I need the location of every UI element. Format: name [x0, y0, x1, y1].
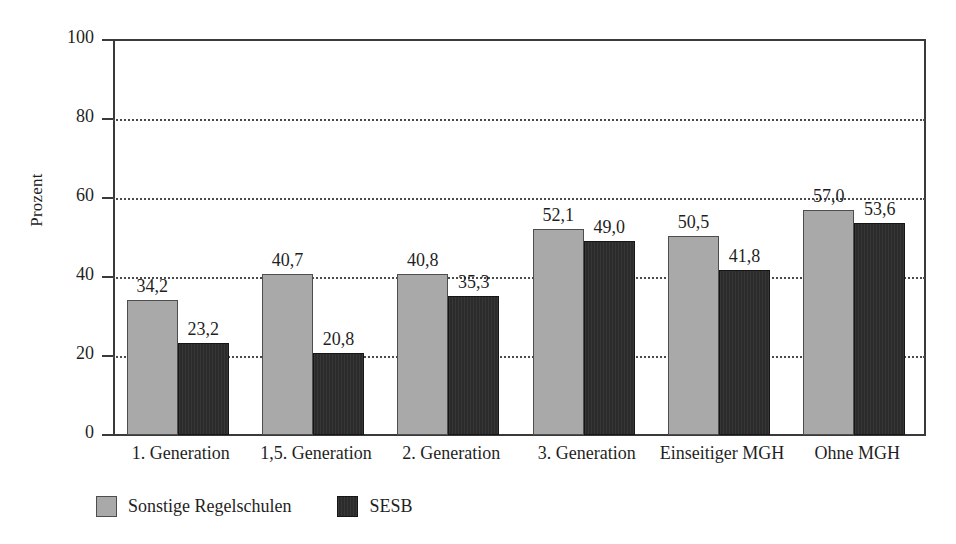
bar-value-label-1-5: 53,6: [843, 199, 916, 220]
legend-label-series-0: Sonstige Regelschulen: [128, 496, 291, 517]
legend-item-sesb[interactable]: SESB: [337, 496, 412, 517]
bar-1-3: [584, 241, 635, 435]
bar-0-3: [533, 229, 584, 435]
y-tick-label-60: 60: [40, 185, 94, 206]
legend-swatch-icon-series-0: [96, 496, 117, 517]
y-tick-mark-20: [102, 355, 113, 357]
bar-value-label-0-4: 50,5: [657, 212, 730, 233]
bar-value-label-0-0: 34,2: [116, 276, 189, 297]
bar-value-label-1-4: 41,8: [708, 246, 781, 267]
y-tick-label-0: 0: [40, 422, 94, 443]
bar-0-5: [803, 210, 854, 435]
bars-layer: 34,223,240,720,840,835,352,149,050,541,8…: [113, 40, 925, 435]
legend-label-series-1: SESB: [369, 496, 412, 517]
bar-0-2: [397, 274, 448, 435]
bar-value-label-1-1: 20,8: [302, 329, 375, 350]
bar-value-label-1-2: 35,3: [437, 272, 510, 293]
bar-1-5: [854, 223, 905, 435]
y-tick-label-40: 40: [40, 264, 94, 285]
legend-item-sonstige-regelschulen[interactable]: Sonstige Regelschulen: [96, 496, 291, 517]
y-tick-mark-60: [102, 197, 113, 199]
x-axis-label-5: Ohne MGH: [778, 443, 937, 464]
bar-value-label-1-3: 49,0: [573, 217, 646, 238]
bar-1-1: [313, 353, 364, 435]
legend: Sonstige Regelschulen SESB: [96, 496, 413, 517]
y-tick-mark-100: [102, 39, 113, 41]
y-tick-label-100: 100: [40, 27, 94, 48]
y-tick-mark-80: [102, 118, 113, 120]
bar-value-label-1-0: 23,2: [167, 319, 240, 340]
y-tick-mark-40: [102, 276, 113, 278]
y-tick-label-80: 80: [40, 106, 94, 127]
legend-swatch-icon-series-1: [337, 496, 358, 517]
bar-0-1: [262, 274, 313, 435]
bar-value-label-0-2: 40,8: [386, 250, 459, 271]
bar-1-2: [448, 296, 499, 435]
bar-1-4: [719, 270, 770, 435]
y-tick-mark-0: [102, 434, 113, 436]
bar-chart: Prozent 020406080100 34,223,240,720,840,…: [0, 0, 956, 544]
y-tick-label-20: 20: [40, 343, 94, 364]
bar-1-0: [178, 343, 229, 435]
bar-value-label-0-1: 40,7: [251, 250, 324, 271]
